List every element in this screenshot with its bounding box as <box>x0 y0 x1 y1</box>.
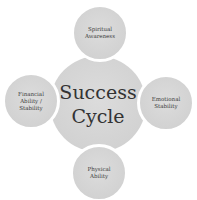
node-label-line3: Stability <box>18 105 44 112</box>
node-label-line1: Spiritual <box>85 26 115 33</box>
node-emotional-stability: Emotional Stability <box>137 74 195 132</box>
node-label-line2: Stability <box>152 103 180 110</box>
node-financial-ability-stability: Financial Ability / Stability <box>2 72 60 130</box>
center-label: Success Cycle <box>59 80 136 128</box>
node-label-line2: Ability / <box>18 98 44 105</box>
node-label-line2: Awareness <box>85 33 115 40</box>
node-label: Financial Ability / Stability <box>12 91 50 112</box>
center-node: Success Cycle <box>50 56 146 152</box>
node-label-line1: Physical <box>87 166 110 173</box>
node-label-line1: Emotional <box>152 96 180 103</box>
node-label-line2: Ability <box>87 173 110 180</box>
center-label-line2: Cycle <box>59 104 136 128</box>
center-label-line1: Success <box>59 80 136 104</box>
node-label: Emotional Stability <box>146 96 186 110</box>
node-physical-ability: Physical Ability <box>70 144 128 200</box>
node-label: Spiritual Awareness <box>79 26 121 40</box>
node-label: Physical Ability <box>81 166 116 180</box>
node-label-line1: Financial <box>18 91 44 98</box>
node-spiritual-awareness: Spiritual Awareness <box>71 4 129 62</box>
